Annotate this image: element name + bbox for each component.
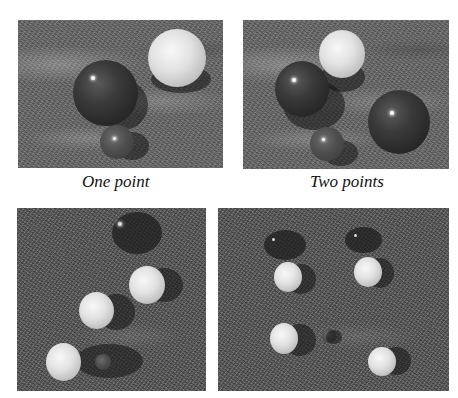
- white-sphere: [129, 266, 165, 304]
- white-sphere: [270, 323, 298, 354]
- dark-sphere: [275, 61, 329, 117]
- white-sphere: [354, 257, 382, 287]
- image-panel-top-right: [243, 20, 449, 169]
- white-sphere: [319, 30, 365, 78]
- image-panel-bottom-right: [218, 208, 449, 391]
- white-sphere: [274, 262, 302, 292]
- sphere-shadow: [326, 330, 342, 344]
- white-sphere: [368, 347, 396, 376]
- caption-one-point: One point: [82, 172, 150, 192]
- small-dark-sphere: [310, 127, 344, 161]
- dark-sphere: [73, 60, 138, 126]
- white-sphere: [148, 29, 206, 87]
- white-sphere: [79, 292, 114, 329]
- white-sphere: [46, 343, 81, 381]
- dark-ellipse: [112, 212, 162, 254]
- image-panel-top-left: [18, 20, 223, 168]
- large-dark-sphere: [368, 90, 430, 154]
- dark-ellipse: [264, 230, 306, 260]
- small-dark-sphere: [100, 125, 134, 159]
- granite-texture: [218, 208, 449, 391]
- small-dark-sphere: [95, 354, 111, 370]
- dark-ellipse: [345, 227, 382, 253]
- image-panel-bottom-left: [17, 208, 206, 391]
- caption-two-points: Two points: [310, 172, 384, 192]
